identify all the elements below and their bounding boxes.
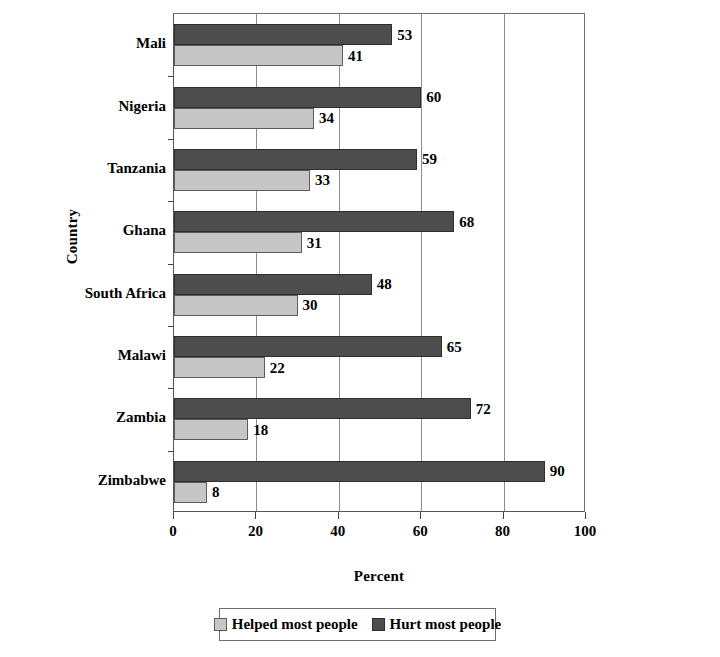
bar-value-label: 53 [397, 28, 412, 43]
bar-value-label: 90 [550, 464, 565, 479]
bar-value-label: 48 [377, 277, 392, 292]
bar-helped[interactable] [174, 357, 265, 378]
category-label: Zambia [116, 410, 166, 425]
x-axis-title: Percent [173, 568, 585, 585]
category-label: Zimbabwe [98, 473, 166, 488]
bar-helped[interactable] [174, 482, 207, 503]
category-label-column: MaliNigeriaTanzaniaGhanaSouth AfricaMala… [0, 0, 166, 657]
legend-entry[interactable]: Helped most people [214, 617, 358, 632]
x-tick-100 [585, 512, 586, 519]
bar-value-label: 18 [253, 423, 268, 438]
x-tick-label-40: 40 [330, 523, 345, 540]
bar-value-label: 68 [459, 215, 474, 230]
bar-hurt[interactable] [174, 149, 417, 170]
y-tick [168, 264, 174, 265]
x-tick-label-20: 20 [248, 523, 263, 540]
bar-value-label: 30 [303, 298, 318, 313]
x-tick-0 [173, 512, 174, 519]
plot-area: 5341603459336831483065227218908 [173, 13, 585, 512]
x-tick-80 [503, 512, 504, 519]
gridline-80 [504, 14, 505, 511]
legend-label: Helped most people [232, 617, 358, 632]
bar-value-label: 65 [447, 340, 462, 355]
bar-hurt[interactable] [174, 87, 421, 108]
bar-value-label: 59 [422, 152, 437, 167]
bar-helped[interactable] [174, 108, 314, 129]
bar-hurt[interactable] [174, 336, 442, 357]
x-tick-label-100: 100 [574, 523, 597, 540]
bar-hurt[interactable] [174, 461, 545, 482]
x-tick-label-0: 0 [169, 523, 177, 540]
legend-label: Hurt most people [390, 617, 502, 632]
x-tick-20 [255, 512, 256, 519]
bar-helped[interactable] [174, 45, 343, 66]
y-tick [168, 201, 174, 202]
bar-hurt[interactable] [174, 24, 392, 45]
y-tick [168, 388, 174, 389]
bar-helped[interactable] [174, 232, 302, 253]
category-label: South Africa [85, 286, 166, 301]
category-label: Nigeria [119, 99, 166, 114]
x-tick-label-80: 80 [495, 523, 510, 540]
bar-value-label: 31 [307, 236, 322, 251]
y-tick [168, 326, 174, 327]
bar-chart-figure: Country MaliNigeriaTanzaniaGhanaSouth Af… [0, 0, 720, 657]
bar-hurt[interactable] [174, 211, 454, 232]
category-label: Ghana [123, 223, 166, 238]
bar-hurt[interactable] [174, 274, 372, 295]
chart-legend: Helped most peopleHurt most people [219, 608, 496, 641]
bar-value-label: 60 [426, 90, 441, 105]
bar-hurt[interactable] [174, 398, 471, 419]
legend-swatch-hurt [372, 618, 385, 631]
bar-helped[interactable] [174, 419, 248, 440]
x-tick-40 [338, 512, 339, 519]
bar-value-label: 72 [476, 402, 491, 417]
bar-value-label: 8 [212, 485, 220, 500]
x-tick-60 [420, 512, 421, 519]
bar-value-label: 41 [348, 49, 363, 64]
legend-swatch-helped [214, 618, 227, 631]
bar-value-label: 33 [315, 173, 330, 188]
gridline-60 [421, 14, 422, 511]
legend-entry[interactable]: Hurt most people [372, 617, 502, 632]
bar-helped[interactable] [174, 295, 298, 316]
category-label: Mali [136, 36, 166, 51]
y-tick [168, 451, 174, 452]
bar-value-label: 22 [270, 361, 285, 376]
bar-value-label: 34 [319, 111, 334, 126]
category-label: Malawi [118, 348, 166, 363]
category-label: Tanzania [107, 161, 166, 176]
y-tick [168, 139, 174, 140]
y-tick [168, 76, 174, 77]
x-tick-label-60: 60 [413, 523, 428, 540]
bar-helped[interactable] [174, 170, 310, 191]
